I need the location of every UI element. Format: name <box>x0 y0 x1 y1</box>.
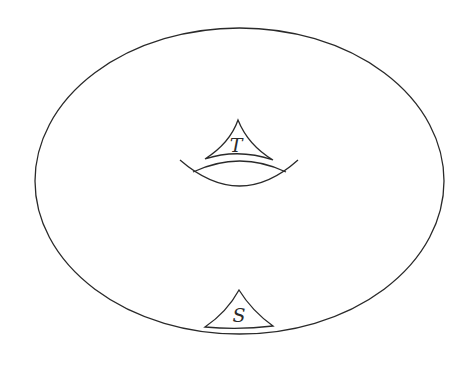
torus-hole-upper-curve <box>193 161 286 172</box>
label-s: S <box>232 304 245 326</box>
label-t: T <box>230 134 244 156</box>
torus-outline <box>35 28 444 334</box>
torus-hole-lower-curve <box>180 160 298 186</box>
torus-diagram: T S <box>0 0 476 368</box>
